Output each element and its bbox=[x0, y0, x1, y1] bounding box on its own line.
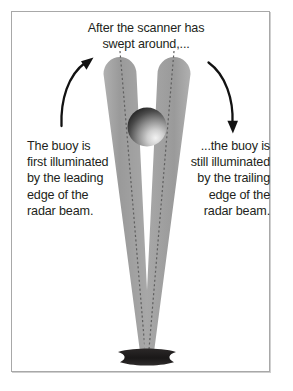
scanner-sphere bbox=[128, 108, 167, 147]
rotation-arrow-right bbox=[209, 63, 239, 134]
buoy bbox=[118, 349, 176, 366]
diagram-canvas: After the scanner has swept around,... T… bbox=[0, 0, 293, 391]
left-caption: The buoy is first illuminated by the lea… bbox=[27, 138, 131, 219]
rotation-arrow-left bbox=[61, 58, 93, 127]
diagram-title: After the scanner has swept around,... bbox=[46, 20, 246, 52]
right-caption: ...the buoy is still illuminated by the … bbox=[166, 138, 270, 219]
